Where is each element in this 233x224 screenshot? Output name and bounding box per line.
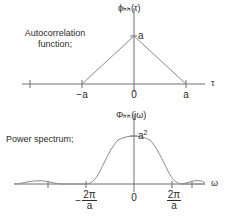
- peak-label-a-squared: a2: [138, 129, 147, 141]
- panel-autocorrelation: Autocorrelation function; ϕₕₕ(τ) a τ −a …: [0, 0, 233, 112]
- tick-minus-sign: −: [75, 195, 81, 206]
- autocorrelation-plot-graphics: [0, 0, 233, 112]
- tick-denominator-left: a: [82, 201, 96, 211]
- tick-label-zero: 0: [125, 89, 143, 100]
- peak-label-a: a: [138, 30, 144, 41]
- sinc-squared-side-lobe-right: [182, 181, 205, 184]
- tick-label-minus-2pi-over-a: − 2π a: [62, 190, 110, 211]
- tick-label-minus-a: −a: [72, 89, 92, 100]
- tick-label-zero-omega: 0: [126, 192, 142, 203]
- figure-autocorrelation-and-power-spectrum: Autocorrelation function; ϕₕₕ(τ) a τ −a …: [0, 0, 233, 224]
- tick-label-2pi-over-a: 2π a: [155, 190, 193, 211]
- peak-label-a-squared-exponent: 2: [144, 129, 148, 136]
- sinc-squared-curve: [14, 136, 205, 184]
- Phi-axis-label: Φₕₕ(jω): [116, 110, 146, 120]
- omega-axis-label: ω: [211, 178, 218, 188]
- panel-power-spectrum: Power spectrum; Φₕₕ(jω) a2 ω −: [0, 108, 233, 224]
- tick-label-a: a: [177, 89, 195, 100]
- phi-axis-label: ϕₕₕ(τ): [118, 3, 141, 13]
- tick-denominator-right: a: [167, 201, 181, 211]
- power-spectrum-plot-graphics: [0, 108, 233, 224]
- tau-axis-label: τ: [211, 78, 215, 88]
